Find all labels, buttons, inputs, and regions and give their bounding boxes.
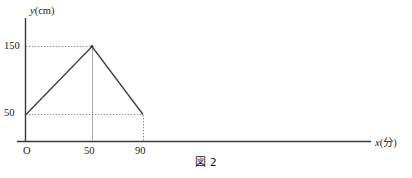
y-tick-label-50: 50 (4, 108, 15, 119)
line-chart-plot (0, 0, 412, 178)
data-line-series-y (26, 47, 143, 115)
x-axis-label: x(分) (375, 138, 397, 149)
x-axis-unit: (分) (380, 137, 397, 148)
x-tick-label-50: 50 (84, 146, 95, 157)
figure-container: y(cm) x(分) 150 50 O 50 90 図 2 (0, 0, 412, 178)
y-axis-unit: (cm) (35, 5, 55, 16)
origin-label: O (23, 146, 31, 157)
data-point-peak (91, 45, 94, 48)
x-tick-label-90: 90 (135, 146, 146, 157)
y-axis-label: y(cm) (30, 6, 55, 17)
figure-caption: 図 2 (0, 157, 412, 168)
y-tick-label-150: 150 (4, 41, 20, 52)
